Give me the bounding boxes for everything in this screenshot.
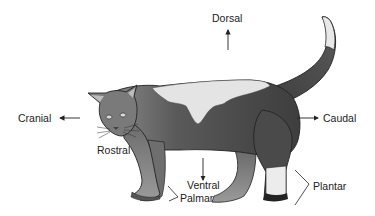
- label-plantar: Plantar: [313, 181, 346, 192]
- head: [88, 85, 139, 138]
- cat-eye-left: [106, 115, 112, 119]
- hind-leg-front: [254, 110, 292, 201]
- anatomy-diagram: Dorsal Cranial Caudal Rostral Ventral Pa…: [0, 0, 375, 216]
- plantar-bracket: [295, 170, 309, 205]
- label-caudal: Caudal: [323, 113, 356, 124]
- cat-eye-right: [120, 113, 126, 117]
- label-dorsal: Dorsal: [212, 13, 242, 24]
- label-rostral: Rostral: [97, 145, 130, 156]
- palmar-bracket: [168, 186, 178, 201]
- hind-leg-back: [212, 150, 256, 202]
- label-cranial: Cranial: [18, 113, 51, 124]
- label-ventral: Ventral: [187, 180, 220, 191]
- label-palmar: Palmar: [180, 193, 213, 204]
